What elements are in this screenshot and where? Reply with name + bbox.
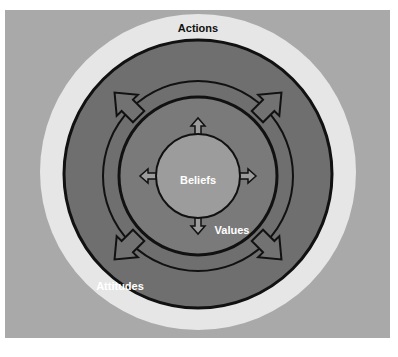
- actions-label: Actions: [178, 22, 218, 34]
- concentric-diagram: Actions Attitudes Values Beliefs: [0, 0, 398, 357]
- attitudes-label: Attitudes: [96, 280, 144, 292]
- beliefs-label: Beliefs: [180, 174, 216, 186]
- values-label: Values: [215, 224, 250, 236]
